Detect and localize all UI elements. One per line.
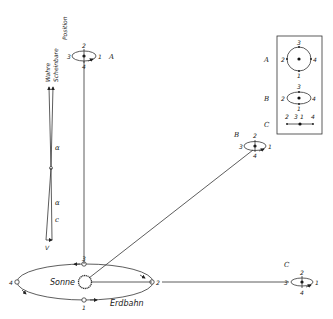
legend-a-label-bottom: 1 (297, 72, 301, 79)
legend-b-name: B (263, 95, 269, 103)
light-vector-c2 (51, 168, 52, 240)
star-b-aberration-ellipse: 2 3 1 4 B (233, 131, 272, 159)
star-c-label-2: 2 (300, 269, 304, 276)
sun-label: Sonne (50, 278, 75, 287)
light-vector-c (46, 168, 51, 240)
apparent-direction-arrow (51, 87, 53, 168)
apparent-position-label: Scheinbare (52, 48, 59, 82)
legend-c-name: C (264, 121, 270, 129)
star-a-label-2: 2 (82, 42, 86, 49)
legend-a-label-right: 4 (313, 56, 317, 63)
legend-b-tick-top (298, 91, 300, 93)
star-c-aberration-ellipse: 2 3 1 4 C (284, 261, 319, 296)
legend-c-label-d: 4 (311, 113, 315, 120)
legend-a-name: A (263, 56, 269, 64)
legend-c-label-b: 3 (294, 113, 298, 120)
star-b-label-3: 3 (239, 143, 243, 150)
position-label: Position (61, 16, 68, 40)
earth-orbit-label: Erdbahn (110, 299, 144, 308)
orbit-label-1: 1 (82, 304, 86, 311)
sun: Sonne (50, 276, 92, 289)
star-b-label-2: 2 (253, 132, 257, 139)
orbit-point-1 (82, 298, 86, 302)
legend-a-label-top: 3 (297, 39, 301, 46)
v-label: V (45, 244, 50, 251)
legend-c-tick-2 (312, 123, 314, 125)
legend-a-tick-left (286, 58, 288, 60)
star-c-label-3: 3 (284, 279, 288, 286)
star-b-label-1: 1 (268, 143, 272, 150)
legend-a-label-left: 2 (281, 56, 285, 63)
legend-a-dot (297, 57, 300, 60)
star-a-label-1: 1 (98, 53, 102, 60)
legend-b-dot (297, 96, 300, 99)
legend-c-label-c: 1 (300, 113, 304, 120)
star-c-name: C (284, 261, 290, 269)
diagram-canvas: Position Wahre Scheinbare α α c V 3 1 4 … (0, 0, 333, 319)
legend-c-dot (298, 122, 301, 125)
alpha-upper-label: α (55, 144, 60, 152)
star-b-label-4: 4 (253, 152, 257, 159)
legend-c-tick-1 (286, 123, 288, 125)
star-c-label-4: 4 (300, 289, 304, 296)
legend-b-label-left: 2 (281, 95, 285, 102)
legend-a-tick-right (310, 58, 312, 60)
orbit-label-4: 4 (9, 279, 13, 286)
legend-b-label-right: 4 (312, 95, 316, 102)
aberration-triangle: α α c V (45, 87, 60, 251)
star-c-label-1: 1 (315, 279, 319, 286)
alpha-lower-label: α (55, 199, 60, 207)
c-label: c (55, 216, 59, 224)
orbit-point-4 (15, 280, 19, 284)
orbit-label-2: 2 (156, 279, 160, 286)
legend-box: A 3 2 4 1 B 3 2 4 1 C 2 3 1 4 (263, 36, 322, 134)
star-a-label-3: 3 (67, 53, 71, 60)
orbit-direction-arrow-right (140, 275, 145, 278)
star-a-name: A (108, 53, 114, 61)
aberration-header: Position Wahre Scheinbare (44, 16, 68, 82)
legend-b-label-bottom: 1 (297, 105, 301, 112)
sightline-b (89, 150, 253, 278)
star-b-name: B (233, 131, 239, 139)
true-position-label: Wahre (44, 62, 51, 82)
star-a-label-4: 4 (82, 63, 86, 70)
legend-c-label-a: 2 (285, 113, 289, 120)
legend-a-tick-top (298, 46, 300, 48)
legend-b-label-top: 3 (297, 83, 301, 90)
true-direction-arrow (49, 87, 51, 168)
star-a-aberration-ellipse: 2 3 1 4 A (67, 42, 114, 70)
